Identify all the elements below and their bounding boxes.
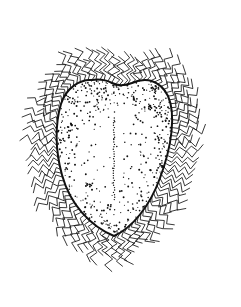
illustration-canvas (0, 0, 241, 307)
hairy-ovoid-illustration (0, 0, 241, 307)
